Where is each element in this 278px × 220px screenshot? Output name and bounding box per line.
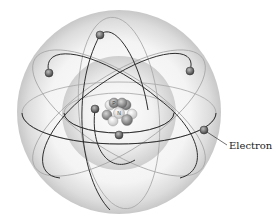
electron <box>186 67 194 75</box>
electron <box>45 69 53 77</box>
electron-labeled <box>200 126 208 134</box>
electron-label: Electron <box>229 140 273 151</box>
electron <box>96 31 104 39</box>
electron <box>91 105 99 113</box>
neutron-label: N <box>117 110 121 116</box>
atom-diagram: P N Electron <box>0 0 278 220</box>
electron <box>115 131 123 139</box>
